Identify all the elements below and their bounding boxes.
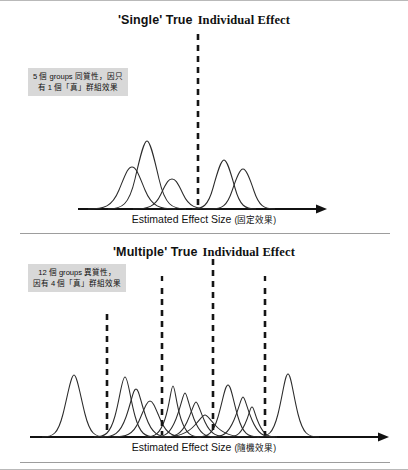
axis-label-random-sub: (隨機效果): [234, 443, 276, 453]
plot-random-effects: [0, 233, 408, 470]
axis-label-random: Estimated Effect Size (隨機效果): [0, 441, 408, 453]
axis-label-random-main: Estimated Effect Size: [132, 441, 232, 453]
curve-study-10: [227, 407, 277, 437]
distribution-curves-fixed: [88, 141, 275, 209]
curve-study-4: [192, 160, 256, 209]
curve-study-12: [160, 415, 250, 437]
true-effect-lines-random: [107, 259, 265, 435]
curve-study-4: [112, 401, 188, 437]
curve-study-5: [145, 386, 201, 437]
curve-study-5: [211, 169, 275, 209]
curve-study-1: [42, 375, 106, 437]
axis-label-fixed-sub: (固定效果): [234, 215, 276, 225]
distribution-curves-random: [42, 374, 319, 437]
curve-study-7: [162, 402, 230, 437]
panel-random-effects: 'Multiple' TrueIndividual Effect 12 個 gr…: [0, 233, 408, 470]
bottom-divider: [20, 462, 390, 463]
curve-study-2: [94, 377, 156, 437]
axis-label-fixed: Estimated Effect Size (固定效果): [0, 213, 408, 225]
axis-label-fixed-main: Estimated Effect Size: [132, 213, 232, 225]
figure-root: 'Single' TrueIndividual Effect 5 個 group…: [0, 0, 408, 470]
curve-study-11: [257, 374, 319, 437]
panel-fixed-effect: 'Single' TrueIndividual Effect 5 個 group…: [0, 0, 408, 233]
curve-study-1: [88, 167, 176, 209]
plot-fixed-effect: [0, 0, 408, 233]
curve-study-2: [108, 141, 186, 209]
